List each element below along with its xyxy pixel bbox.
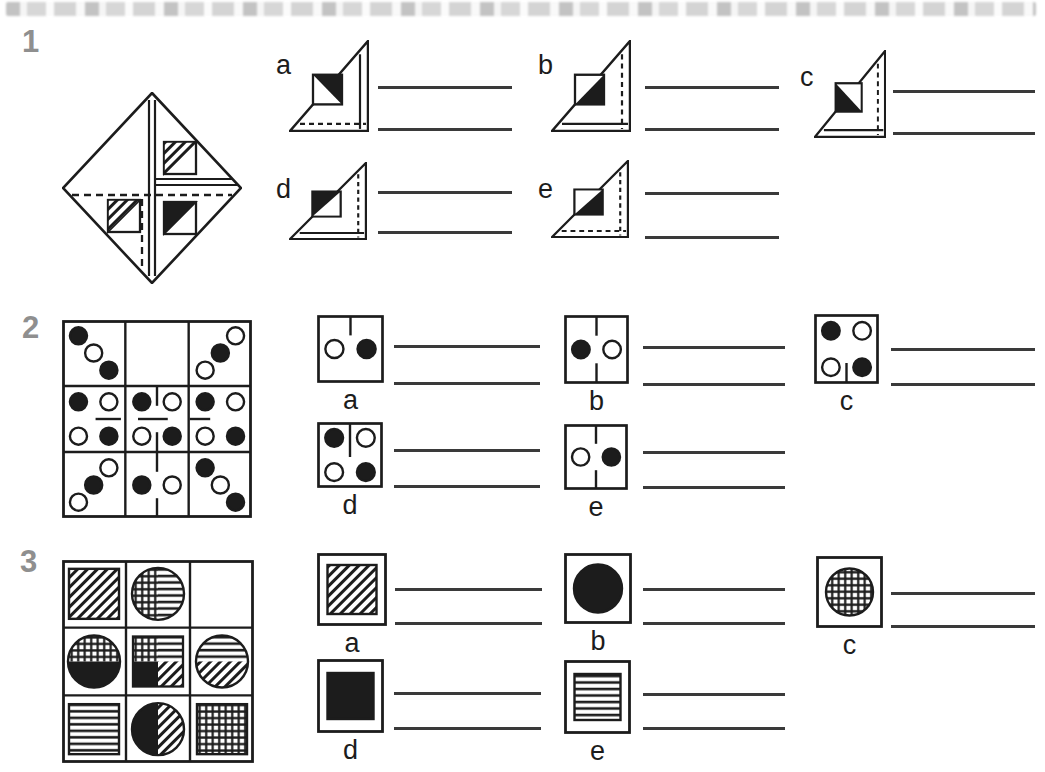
grid-cell — [132, 703, 184, 755]
grid-cell — [68, 636, 120, 688]
dot-white — [100, 393, 117, 410]
dot-white — [85, 344, 102, 361]
q1-option-b-figure — [551, 40, 631, 132]
answer-line — [378, 231, 512, 234]
answer-line — [378, 191, 512, 194]
answer-line — [394, 485, 540, 488]
dot-black — [853, 358, 871, 376]
grid-cell — [69, 704, 119, 754]
q2-option-b-figure — [564, 315, 629, 384]
dot-white — [325, 463, 343, 481]
q2-option-a-figure — [317, 315, 384, 383]
question-2-number: 2 — [22, 312, 39, 343]
answer-line — [394, 449, 540, 452]
dot-white — [70, 428, 87, 445]
dot-black — [357, 463, 375, 481]
answer-line — [891, 383, 1035, 386]
dot-white — [853, 322, 871, 340]
q3-option-e-figure — [564, 660, 631, 734]
q3-option-a-figure — [317, 553, 387, 626]
dot-white — [197, 428, 214, 445]
grid-cell — [133, 637, 183, 687]
grid-cell — [132, 568, 184, 620]
dot-black — [227, 494, 244, 511]
q3-option-e-label: e — [564, 738, 631, 765]
pattern-circle-black — [574, 565, 622, 613]
answer-line — [395, 622, 542, 625]
pattern-square-diag — [328, 565, 377, 614]
dot-black — [164, 428, 181, 445]
grid-cell — [196, 636, 248, 688]
dot-white — [197, 362, 214, 379]
dot-white — [164, 393, 181, 410]
dot-black — [822, 322, 840, 340]
q3-option-a-label: a — [317, 630, 387, 657]
answer-line — [643, 451, 785, 454]
dot-black — [100, 362, 117, 379]
quadrant-bl-black — [133, 662, 158, 687]
pattern-square-cross — [197, 704, 247, 754]
answer-line — [643, 486, 785, 489]
dot-white — [164, 476, 181, 493]
grid-cell — [197, 704, 247, 754]
answer-line — [643, 588, 785, 591]
q1-option-e-figure — [551, 160, 629, 238]
question-1-number: 1 — [22, 26, 39, 57]
q3-option-b-figure — [564, 553, 632, 624]
quadrant-br-diag — [158, 662, 183, 687]
quadrant-tl-cross — [133, 637, 158, 662]
pattern-square-black — [328, 673, 374, 719]
q3-pattern-grid-figure — [62, 560, 254, 763]
q3-option-c-figure — [816, 556, 883, 628]
q2-option-a-label: a — [317, 387, 384, 414]
dot-black — [100, 428, 117, 445]
dot-white — [822, 358, 840, 376]
q1-option-c-label: c — [800, 64, 814, 91]
answer-line — [394, 345, 540, 348]
dot-white — [70, 494, 87, 511]
q2-option-e-figure — [564, 424, 628, 490]
dot-black — [197, 459, 214, 476]
answer-line — [643, 383, 785, 386]
answer-line — [891, 348, 1035, 351]
answer-line — [645, 192, 779, 195]
dot-white — [227, 393, 244, 410]
dot-white — [603, 341, 621, 359]
dot-white — [100, 459, 117, 476]
dot-black — [227, 428, 244, 445]
dot-black — [358, 340, 376, 358]
answer-line — [394, 382, 540, 385]
answer-line — [645, 236, 779, 239]
answer-line — [378, 86, 512, 89]
answer-line — [643, 622, 785, 625]
answer-line — [893, 90, 1035, 93]
q3-option-d-label: d — [317, 737, 384, 764]
pattern-square-diag — [69, 569, 119, 619]
q2-option-d-figure — [317, 422, 383, 488]
quadrant-tr-hstripe — [158, 637, 183, 662]
q1-diamond-figure — [62, 92, 242, 284]
q1-option-d-figure — [289, 162, 367, 240]
q2-option-d-label: d — [317, 492, 383, 519]
q1-option-c-figure — [814, 50, 886, 138]
q3-option-c-label: c — [816, 632, 883, 659]
dot-black — [603, 448, 620, 465]
answer-line — [394, 727, 541, 730]
q3-option-d-figure — [317, 659, 384, 733]
dot-white — [227, 327, 244, 344]
dot-black — [325, 429, 343, 447]
dot-white — [133, 428, 150, 445]
answer-line — [891, 592, 1035, 595]
dot-black — [70, 327, 87, 344]
dot-white — [212, 476, 229, 493]
answer-line — [378, 128, 512, 131]
q2-option-b-label: b — [564, 388, 629, 415]
answer-line — [394, 692, 541, 695]
q2-option-c-label: c — [814, 388, 879, 415]
dot-black — [133, 393, 150, 410]
q2-dots-grid-figure — [62, 320, 252, 518]
scanned-test-page: 1 a b c d e 2 a b — [0, 0, 1045, 772]
dot-black — [133, 476, 150, 493]
dot-black — [85, 476, 102, 493]
dot-black — [70, 393, 87, 410]
